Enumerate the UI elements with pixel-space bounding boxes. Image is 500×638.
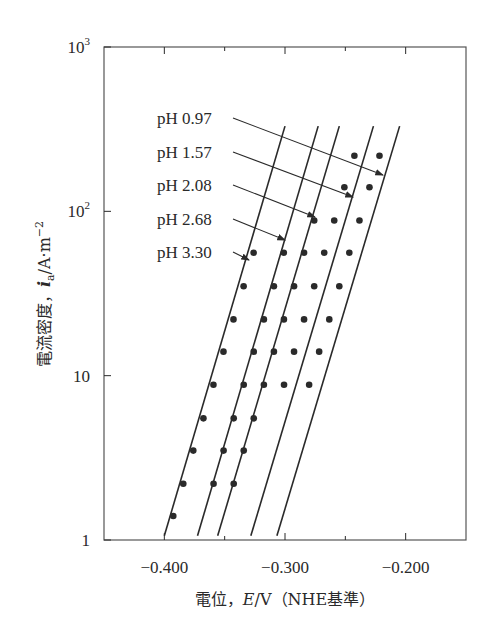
data-point <box>351 152 358 159</box>
data-point <box>250 415 257 422</box>
data-point <box>346 249 353 256</box>
series-pH-0_97 <box>277 126 400 536</box>
data-point <box>291 283 298 290</box>
data-point <box>366 184 373 191</box>
data-point <box>281 381 288 388</box>
arrow <box>233 185 315 217</box>
ph-label: pH 0.97 <box>157 109 212 128</box>
ph-label: pH 2.08 <box>157 176 212 195</box>
data-point <box>190 447 197 454</box>
data-point <box>240 381 247 388</box>
data-point <box>220 447 227 454</box>
y-tick-label: 10 <box>73 367 90 386</box>
y-axis-title: 電流密度，ia/A·m−2 <box>33 221 57 367</box>
data-point <box>240 283 247 290</box>
data-point <box>261 381 268 388</box>
data-point <box>230 415 237 422</box>
ph-label: pH 1.57 <box>157 143 212 162</box>
data-point <box>170 513 177 520</box>
data-point <box>326 316 333 323</box>
data-point <box>271 348 278 355</box>
series-pH-1_57 <box>251 126 374 536</box>
x-tick-label: −0.300 <box>261 558 309 577</box>
data-point <box>220 348 227 355</box>
data-point <box>336 283 343 290</box>
arrow <box>233 152 353 197</box>
data-point <box>271 283 278 290</box>
y-tick-label: 102 <box>68 199 91 221</box>
ph-label: pH 2.68 <box>157 210 212 229</box>
x-tick-label: −0.200 <box>382 558 430 577</box>
data-point <box>210 480 217 487</box>
data-point <box>316 348 323 355</box>
ph-annotations: pH 0.97pH 1.57pH 2.08pH 2.68pH 3.30 <box>157 109 383 262</box>
data-point <box>321 249 328 256</box>
data-point <box>301 316 308 323</box>
ph-label: pH 3.30 <box>157 243 212 262</box>
series-pH-2_68 <box>198 126 319 536</box>
data-point <box>250 348 257 355</box>
data-point <box>331 217 338 224</box>
data-point <box>356 217 363 224</box>
data-point <box>280 249 287 256</box>
data-point <box>261 316 268 323</box>
data-point <box>250 249 257 256</box>
series-pH-2_08 <box>218 126 340 536</box>
data-point <box>200 415 207 422</box>
data-point <box>311 283 318 290</box>
data-point <box>180 480 187 487</box>
data-point <box>240 447 247 454</box>
y-tick-label: 103 <box>68 35 91 57</box>
data-point <box>376 152 383 159</box>
data-point <box>291 348 298 355</box>
data-point <box>281 316 288 323</box>
data-point <box>230 316 237 323</box>
data-point <box>311 217 318 224</box>
data-point <box>306 381 313 388</box>
data-point <box>210 381 217 388</box>
arrow <box>233 118 383 175</box>
y-tick-label: 1 <box>82 531 91 550</box>
data-point <box>301 249 308 256</box>
arrow <box>233 219 285 240</box>
data-point <box>341 184 348 191</box>
x-axis-title: 電位，E/V（NHE基準） <box>195 590 375 609</box>
x-tick-label: −0.400 <box>140 558 188 577</box>
polarization-chart: −0.400−0.300−0.200 110102103 pH 0.97pH 1… <box>0 0 500 638</box>
data-point <box>230 480 237 487</box>
